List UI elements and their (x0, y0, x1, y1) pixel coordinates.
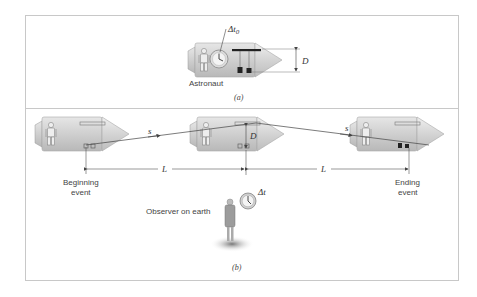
caption-b: (b) (232, 263, 242, 272)
distance-label-a: D (301, 56, 309, 66)
clock-label-a: Δt0 (227, 24, 240, 36)
observer-label: Observer on earth (146, 207, 210, 216)
emitter (238, 67, 243, 73)
astronaut-label: Astronaut (189, 79, 224, 88)
observer-icon (225, 199, 235, 241)
path-label-s1: s (148, 126, 152, 136)
height-label-b: D (249, 131, 257, 141)
spaceship-end (350, 117, 444, 151)
light-clock-diagram: Δt0 D Astronaut (a) (0, 0, 477, 297)
caption-a: (a) (234, 93, 244, 102)
observer-clock-icon (240, 193, 256, 209)
panel-a: Δt0 D Astronaut (a) (188, 24, 309, 102)
distance-label-l2: L (320, 164, 326, 174)
mirror (232, 49, 261, 51)
beginning-event-label-2: event (71, 188, 91, 197)
detector (247, 68, 252, 73)
observer-clock-label: Δt (257, 187, 266, 197)
clock-icon (210, 50, 228, 68)
path-label-s2: s (345, 123, 349, 133)
distance-label-l1: L (161, 164, 167, 174)
panel-b: s s D L L Beginning event Ending event (35, 117, 444, 272)
ending-event-label-1: Ending (395, 178, 420, 187)
spaceship-begin (35, 117, 129, 151)
beginning-event-label-1: Beginning (63, 178, 99, 187)
ending-event-label-2: event (398, 188, 418, 197)
spaceship-middle (190, 117, 284, 151)
